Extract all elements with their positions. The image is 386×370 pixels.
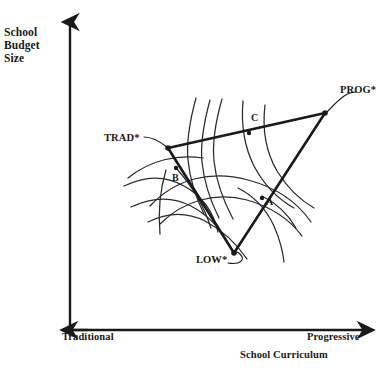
indifference-curve bbox=[128, 157, 203, 178]
vertex-label-trad: TRAD* bbox=[104, 132, 140, 144]
point-label-a: A bbox=[266, 196, 273, 207]
leader-line-trad bbox=[144, 137, 167, 147]
point-marker-c bbox=[247, 131, 251, 135]
x-axis-left-label: Traditional bbox=[62, 331, 114, 343]
x-axis-title: School Curriculum bbox=[240, 349, 328, 361]
figure-container: School Budget Size Traditional Progressi… bbox=[0, 0, 386, 370]
point-marker-a bbox=[260, 196, 264, 200]
y-axis-title: School Budget Size bbox=[4, 26, 40, 65]
vertex-label-prog: PROG* bbox=[340, 84, 376, 96]
indifference-curve bbox=[213, 99, 233, 219]
vertex-dot-low bbox=[231, 250, 237, 256]
indifference-curve bbox=[160, 197, 302, 236]
vertex-dot-prog bbox=[322, 110, 328, 116]
x-axis-right-label: Progressive bbox=[307, 331, 360, 343]
indifference-curve bbox=[201, 100, 219, 218]
point-marker-b bbox=[174, 166, 178, 170]
point-label-c: C bbox=[251, 112, 258, 123]
vertex-label-low: LOW* bbox=[196, 254, 227, 266]
point-label-b: B bbox=[172, 172, 179, 183]
diagram-canvas bbox=[0, 0, 386, 370]
